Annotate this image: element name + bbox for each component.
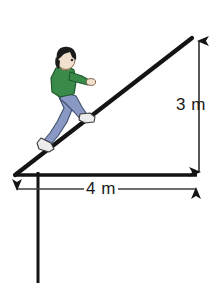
- diagram-canvas: [0, 0, 223, 290]
- person-hand: [86, 79, 95, 86]
- base-dimension-label: 4 m: [84, 179, 118, 199]
- ramp-incline-line: [15, 38, 192, 175]
- person-front-shoe: [79, 113, 95, 123]
- height-dimension-label: 3 m: [176, 95, 206, 115]
- ramp-diagram: 3 m 4 m: [0, 0, 223, 290]
- person-eye: [71, 59, 74, 62]
